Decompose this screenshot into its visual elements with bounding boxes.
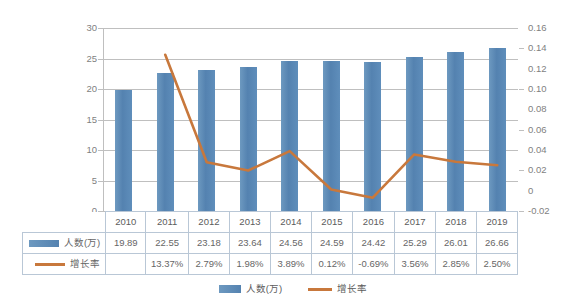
table-row: 人数(万)19.8922.5523.1823.6424.5624.5924.42… bbox=[23, 233, 518, 254]
table-cell: 19.89 bbox=[106, 233, 146, 254]
table-cell: 26.01 bbox=[435, 233, 476, 254]
table-cell: 2.85% bbox=[435, 254, 476, 275]
table-cell: 2.79% bbox=[188, 254, 229, 275]
table-cell: 1.98% bbox=[229, 254, 270, 275]
table-cell: 23.64 bbox=[229, 233, 270, 254]
table-cell: -0.69% bbox=[352, 254, 394, 275]
right-axis-tick-label: 0.14 bbox=[528, 43, 562, 53]
table-year-header: 2010 bbox=[106, 212, 146, 233]
table-cell: 22.55 bbox=[146, 233, 189, 254]
table-year-header: 2018 bbox=[435, 212, 476, 233]
right-axis-tick-label: 0.16 bbox=[528, 23, 562, 33]
right-axis-tick-mark bbox=[519, 170, 524, 171]
table-cell: 25.29 bbox=[394, 233, 435, 254]
left-axis-tick-label: 20 bbox=[71, 84, 97, 94]
chart-legend: 人数(万)增长率 bbox=[0, 281, 586, 295]
right-axis-tick-label: 0.12 bbox=[528, 64, 562, 74]
table-cell: 2.50% bbox=[476, 254, 517, 275]
table-year-header: 2012 bbox=[188, 212, 229, 233]
legend-label: 人数(万) bbox=[246, 283, 282, 294]
left-axis-tick-label: 10 bbox=[71, 145, 97, 155]
table-cell: 0.12% bbox=[311, 254, 352, 275]
bar-swatch-icon bbox=[29, 240, 59, 247]
table-year-header: 2019 bbox=[476, 212, 517, 233]
table-cell: 24.59 bbox=[311, 233, 352, 254]
table-row-label: 人数(万) bbox=[64, 237, 100, 248]
table-year-header: 2013 bbox=[229, 212, 270, 233]
right-axis-tick-label: -0.02 bbox=[528, 206, 562, 216]
table-row: 增长率13.37%2.79%1.98%3.89%0.12%-0.69%3.56%… bbox=[23, 254, 518, 275]
right-axis-tick-mark bbox=[519, 211, 524, 212]
table-row-label: 增长率 bbox=[70, 258, 100, 269]
right-axis-tick-label: 0.10 bbox=[528, 84, 562, 94]
table-year-header: 2015 bbox=[311, 212, 352, 233]
table-cell bbox=[106, 254, 146, 275]
table-cell: 24.42 bbox=[352, 233, 394, 254]
table-year-header: 2017 bbox=[394, 212, 435, 233]
table-year-header: 2016 bbox=[352, 212, 394, 233]
table-cell: 3.56% bbox=[394, 254, 435, 275]
right-axis-tick-mark bbox=[519, 130, 524, 131]
table-row-header: 增长率 bbox=[23, 254, 106, 275]
left-axis-tick-label: 15 bbox=[71, 115, 97, 125]
right-axis-tick-label: 0.08 bbox=[528, 104, 562, 114]
right-axis-tick-label: 0.04 bbox=[528, 145, 562, 155]
right-axis-tick-label: 0 bbox=[528, 186, 562, 196]
chart-page: 051015202530 -0.0200.020.040.060.080.100… bbox=[0, 0, 586, 304]
line-series bbox=[103, 28, 518, 211]
legend-line-icon bbox=[308, 288, 332, 291]
table-year-header: 2014 bbox=[270, 212, 311, 233]
legend-item[interactable]: 人数(万) bbox=[219, 281, 282, 295]
table-row-header: 人数(万) bbox=[23, 233, 106, 254]
growth-rate-line bbox=[165, 55, 497, 198]
legend-label: 增长率 bbox=[337, 283, 367, 294]
table-cell: 3.89% bbox=[270, 254, 311, 275]
plot-canvas bbox=[103, 28, 518, 211]
right-axis-tick-mark bbox=[519, 48, 524, 49]
table-cell: 24.56 bbox=[270, 233, 311, 254]
left-axis-tick-label: 30 bbox=[71, 23, 97, 33]
right-axis-tick-label: 0.06 bbox=[528, 125, 562, 135]
line-swatch-icon bbox=[35, 263, 65, 266]
right-axis-tick-label: 0.02 bbox=[528, 165, 562, 175]
table-cell: 26.66 bbox=[476, 233, 517, 254]
table-header-row: 2010201120122013201420152016201720182019 bbox=[23, 212, 518, 233]
table-cell: 23.18 bbox=[188, 233, 229, 254]
table-year-header: 2011 bbox=[146, 212, 189, 233]
table-cell: 13.37% bbox=[146, 254, 189, 275]
left-axis-tick-label: 5 bbox=[71, 176, 97, 186]
chart-plot-area: 051015202530 -0.0200.020.040.060.080.100… bbox=[0, 0, 586, 215]
right-axis-tick-mark bbox=[519, 89, 524, 90]
legend-item[interactable]: 增长率 bbox=[308, 281, 367, 295]
data-table: 2010201120122013201420152016201720182019… bbox=[22, 211, 518, 275]
legend-bar-icon bbox=[219, 285, 241, 293]
left-axis-tick-label: 25 bbox=[71, 54, 97, 64]
table-corner-cell bbox=[23, 212, 106, 233]
